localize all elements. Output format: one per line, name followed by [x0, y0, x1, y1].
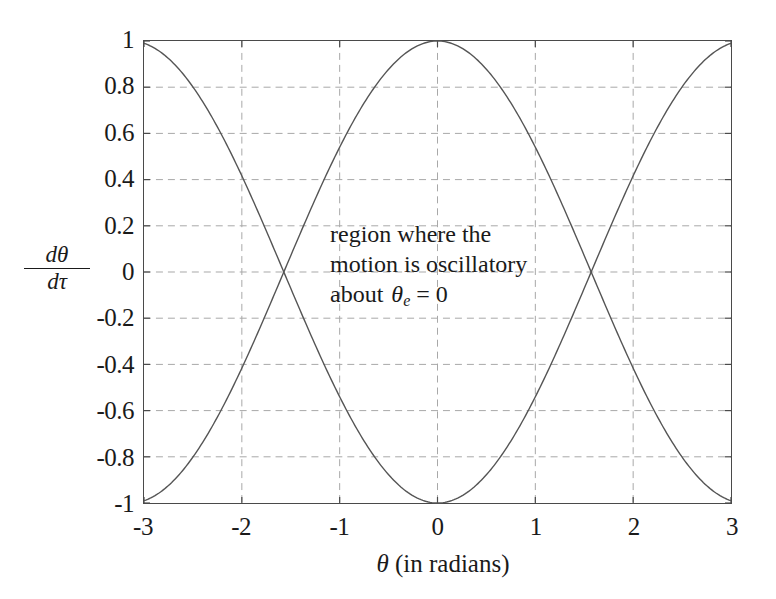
y-axis-tick-label: 1 [64, 27, 134, 52]
annotation-line-3: aboutθe = 0 [330, 279, 527, 311]
y-axis-tick-label: 0 [64, 259, 134, 284]
annotation-line-2: motion is oscillatory [330, 249, 527, 279]
annotation-theta-subscript: e [403, 292, 410, 309]
y-axis-tick-label: 0.6 [64, 120, 134, 145]
x-axis-tick-label: 2 [604, 514, 664, 539]
y-axis-tick-label: -0.2 [64, 305, 134, 330]
y-axis-tick-labels: 10.80.60.40.20-0.2-0.4-0.6-0.8-1 [60, 40, 134, 504]
x-axis-tick-label: 0 [408, 514, 468, 539]
figure-container: dθ dτ 10.80.60.40.20-0.2-0.4-0.6-0.8-1 r… [0, 0, 776, 599]
y-axis-tick-label: 0.8 [64, 73, 134, 98]
y-axis-tick-label: -0.4 [64, 352, 134, 377]
x-axis-tick-label: 3 [702, 514, 762, 539]
y-axis-tick-label: 0.4 [64, 166, 134, 191]
x-axis-tick-label: 1 [506, 514, 566, 539]
x-axis-label-text: (in radians) [389, 550, 510, 577]
x-axis-label: θ (in radians) [243, 551, 643, 576]
y-axis-tick-label: -0.8 [64, 445, 134, 470]
x-axis-tick-label: -1 [309, 514, 369, 539]
x-axis-tick-labels: -3-2-10123 [143, 514, 732, 548]
annotation-line-1: region where the [330, 219, 527, 249]
x-axis-tick-label: -3 [113, 514, 173, 539]
y-axis-tick-label: 0.2 [64, 213, 134, 238]
annotation-line-3-suffix: = 0 [416, 281, 448, 307]
oscillatory-region-annotation: region where the motion is oscillatory a… [330, 219, 527, 312]
annotation-theta-symbol: θ [383, 281, 403, 307]
annotation-line-3-prefix: about [330, 281, 383, 307]
x-axis-label-symbol: θ [376, 550, 388, 577]
y-axis-tick-label: -1 [64, 491, 134, 516]
y-axis-tick-label: -0.6 [64, 398, 134, 423]
x-axis-tick-label: -2 [211, 514, 271, 539]
